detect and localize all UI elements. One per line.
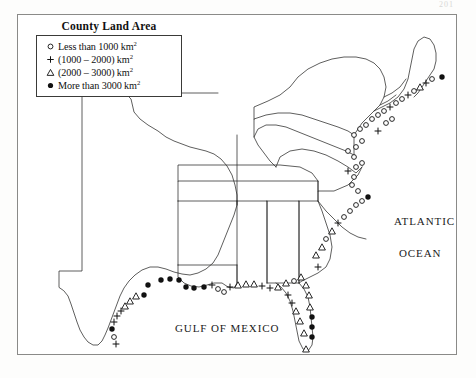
legend: County Land Area Less than 1000 km2(1000… bbox=[36, 20, 182, 97]
county-marker bbox=[375, 128, 382, 135]
county-marker bbox=[113, 341, 120, 348]
county-marker bbox=[303, 282, 310, 288]
legend-item-label: (1000 – 2000) km2 bbox=[57, 53, 133, 65]
county-marker bbox=[191, 285, 196, 290]
scanned-page: 201 bbox=[0, 0, 476, 378]
county-marker bbox=[350, 183, 355, 188]
county-marker bbox=[109, 326, 114, 331]
county-marker bbox=[167, 276, 172, 281]
county-marker bbox=[346, 149, 351, 154]
county-marker bbox=[360, 161, 365, 166]
county-marker bbox=[358, 127, 363, 132]
county-marker bbox=[405, 92, 412, 99]
map-area: ATLANTIC OCEAN GULF OF MEXICO County Lan… bbox=[18, 15, 456, 354]
county-marker bbox=[352, 155, 357, 160]
label-gulf-of-mexico: GULF OF MEXICO bbox=[175, 322, 279, 334]
county-marker bbox=[251, 281, 258, 287]
county-marker bbox=[133, 293, 140, 299]
county-marker bbox=[439, 74, 444, 79]
open-triangle-icon bbox=[43, 68, 57, 77]
legend-item-plus: (1000 – 2000) km2 bbox=[43, 53, 176, 66]
county-marker bbox=[297, 318, 304, 324]
county-marker bbox=[356, 189, 361, 194]
county-marker bbox=[216, 287, 221, 292]
legend-item-open-triangle: (2000 – 3000) km2 bbox=[43, 66, 176, 79]
county-marker bbox=[301, 330, 308, 336]
label-ocean-word: OCEAN bbox=[399, 247, 441, 259]
county-marker bbox=[114, 313, 121, 320]
county-marker bbox=[309, 314, 314, 319]
county-marker bbox=[293, 308, 300, 314]
county-marker bbox=[360, 199, 365, 204]
county-marker bbox=[309, 324, 314, 329]
figure-frame: ATLANTIC OCEAN GULF OF MEXICO County Lan… bbox=[17, 14, 457, 355]
county-marker bbox=[365, 194, 370, 199]
legend-item-open-circle: Less than 1000 km2 bbox=[43, 40, 176, 53]
county-marker bbox=[387, 104, 394, 111]
open-circle-symbol bbox=[46, 42, 55, 51]
county-marker bbox=[352, 133, 357, 138]
county-marker bbox=[183, 284, 188, 289]
filled-circle-icon bbox=[43, 81, 57, 90]
county-marker bbox=[298, 274, 305, 280]
county-marker bbox=[354, 145, 359, 150]
county-marker bbox=[382, 109, 387, 114]
county-marker bbox=[243, 281, 250, 287]
county-marker bbox=[259, 283, 266, 290]
county-marker bbox=[364, 123, 369, 128]
page-number: 201 bbox=[439, 0, 454, 8]
county-marker bbox=[376, 113, 381, 118]
county-marker bbox=[390, 117, 395, 122]
plus-icon bbox=[43, 55, 57, 64]
county-marker bbox=[158, 277, 163, 282]
county-marker bbox=[176, 277, 181, 282]
label-atlantic-ocean: ATLANTIC bbox=[394, 215, 455, 227]
county-markers bbox=[109, 74, 444, 352]
county-marker bbox=[348, 209, 353, 214]
county-marker bbox=[307, 304, 314, 310]
county-marker bbox=[394, 101, 399, 106]
county-marker bbox=[141, 292, 146, 297]
county-marker bbox=[209, 282, 216, 289]
county-marker bbox=[412, 89, 417, 94]
legend-box: Less than 1000 km2(1000 – 2000) km2(2000… bbox=[36, 35, 182, 97]
county-marker bbox=[324, 237, 329, 242]
legend-item-label: Less than 1000 km2 bbox=[57, 40, 137, 52]
county-marker bbox=[329, 228, 336, 234]
county-marker bbox=[370, 117, 375, 122]
county-marker bbox=[319, 244, 326, 250]
plus-symbol bbox=[46, 55, 55, 64]
county-marker bbox=[354, 203, 359, 208]
legend-title: County Land Area bbox=[36, 20, 182, 35]
county-marker bbox=[315, 264, 322, 271]
county-marker bbox=[384, 121, 389, 126]
legend-item-label: More than 3000 km2 bbox=[57, 79, 140, 91]
county-marker bbox=[292, 279, 297, 284]
county-marker bbox=[111, 319, 118, 326]
county-marker bbox=[112, 335, 117, 340]
open-circle-icon bbox=[43, 42, 57, 51]
county-marker bbox=[354, 165, 359, 170]
county-marker bbox=[360, 139, 365, 144]
county-marker bbox=[313, 252, 320, 258]
county-marker bbox=[309, 334, 314, 339]
legend-item-filled-circle: More than 3000 km2 bbox=[43, 79, 176, 92]
county-marker bbox=[342, 215, 347, 220]
county-marker bbox=[145, 282, 150, 287]
county-marker bbox=[400, 97, 405, 102]
county-marker bbox=[267, 285, 274, 292]
county-marker bbox=[201, 284, 206, 289]
county-marker bbox=[227, 284, 234, 291]
open-triangle-symbol bbox=[46, 68, 55, 77]
filled-circle-symbol bbox=[46, 81, 55, 90]
county-marker bbox=[423, 80, 430, 87]
county-marker bbox=[222, 290, 227, 295]
county-marker bbox=[430, 77, 435, 82]
legend-item-label: (2000 – 3000) km2 bbox=[57, 66, 133, 78]
county-marker bbox=[352, 175, 357, 180]
